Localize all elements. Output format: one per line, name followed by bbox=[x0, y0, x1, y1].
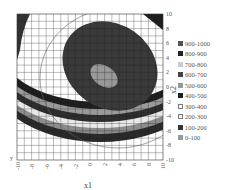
svg-text:-8: -8 bbox=[166, 142, 171, 148]
x-axis-label: x1 bbox=[84, 181, 92, 190]
legend-label: 200-300 bbox=[185, 113, 207, 120]
svg-text:4: 4 bbox=[166, 55, 169, 61]
grid bbox=[17, 14, 163, 160]
legend-item: 300-400 bbox=[178, 101, 224, 112]
legend-item: 100-200 bbox=[178, 122, 224, 133]
legend-label: 700-800 bbox=[185, 61, 207, 68]
legend-label: 400-500 bbox=[185, 92, 207, 99]
svg-text:2: 2 bbox=[102, 163, 108, 166]
legend: 900-1000800-900700-800600-700500-600400-… bbox=[178, 38, 224, 143]
legend-label: 300-400 bbox=[185, 103, 207, 110]
legend-swatch bbox=[178, 114, 183, 119]
svg-text:-2: -2 bbox=[166, 99, 171, 105]
svg-text:6: 6 bbox=[166, 40, 169, 46]
svg-text:-10: -10 bbox=[166, 157, 174, 163]
legend-label: 900-1000 bbox=[185, 40, 210, 47]
legend-swatch bbox=[178, 93, 183, 98]
legend-label: 100-200 bbox=[185, 124, 207, 131]
svg-text:-8: -8 bbox=[29, 164, 35, 169]
svg-text:-6: -6 bbox=[44, 164, 50, 169]
svg-text:6: 6 bbox=[131, 163, 137, 166]
legend-swatch bbox=[178, 72, 183, 77]
legend-item: 900-1000 bbox=[178, 38, 224, 49]
legend-label: 0-100 bbox=[185, 134, 200, 141]
legend-label: 600-700 bbox=[185, 71, 207, 78]
svg-text:-6: -6 bbox=[166, 128, 171, 134]
legend-item: 500-600 bbox=[178, 80, 224, 91]
legend-swatch bbox=[178, 83, 183, 88]
legend-swatch bbox=[178, 41, 183, 46]
y-axis-label: x2 bbox=[169, 86, 178, 94]
legend-swatch bbox=[178, 51, 183, 56]
legend-item: 700-800 bbox=[178, 59, 224, 70]
svg-text:8: 8 bbox=[166, 26, 169, 32]
legend-item: 600-700 bbox=[178, 70, 224, 81]
svg-text:10: 10 bbox=[160, 163, 166, 169]
corner-y-label: y bbox=[10, 155, 13, 161]
svg-text:-4: -4 bbox=[58, 164, 64, 169]
svg-text:-2: -2 bbox=[73, 164, 79, 169]
svg-text:0: 0 bbox=[87, 163, 93, 166]
svg-text:4: 4 bbox=[117, 163, 123, 166]
legend-item: 0-100 bbox=[178, 133, 224, 144]
svg-text:10: 10 bbox=[166, 11, 172, 17]
legend-item: 800-900 bbox=[178, 49, 224, 60]
svg-text:-4: -4 bbox=[166, 113, 171, 119]
svg-text:8: 8 bbox=[146, 163, 152, 166]
legend-swatch bbox=[178, 104, 183, 109]
legend-item: 400-500 bbox=[178, 91, 224, 102]
legend-label: 500-600 bbox=[185, 82, 207, 89]
legend-swatch bbox=[178, 62, 183, 67]
svg-text:2: 2 bbox=[166, 69, 169, 75]
y-axis: 10 8 6 4 2 0 -2 -4 -6 -8 -10 x2 bbox=[166, 11, 178, 163]
svg-text:-10: -10 bbox=[15, 162, 21, 170]
legend-swatch bbox=[178, 135, 183, 140]
legend-item: 200-300 bbox=[178, 112, 224, 123]
legend-label: 800-900 bbox=[185, 50, 207, 57]
legend-swatch bbox=[178, 125, 183, 130]
